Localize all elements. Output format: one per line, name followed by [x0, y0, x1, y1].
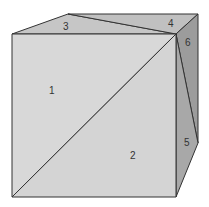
cube-diagram: 1 2 3 4 5 6 — [0, 0, 209, 207]
region-3-label: 3 — [63, 21, 69, 32]
region-5-label: 5 — [184, 137, 190, 148]
region-2-label: 2 — [130, 150, 136, 161]
region-4-label: 4 — [168, 18, 174, 29]
region-6-label: 6 — [185, 37, 191, 48]
region-1-label: 1 — [49, 85, 55, 96]
